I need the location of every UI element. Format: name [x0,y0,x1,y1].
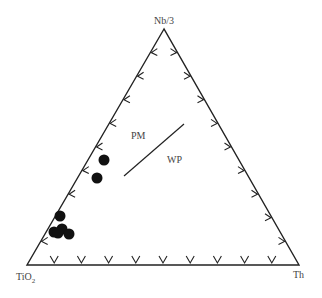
data-point [53,228,64,239]
vertex-label-bottom-left: TiO2 [16,271,36,285]
field-label-pm: PM [131,130,146,141]
data-point [92,173,103,184]
ternary-diagram: Nb/3 TiO2 Th PM WP [0,0,322,298]
tick-bottom [105,256,113,263]
vertex-label-top: Nb/3 [154,15,174,26]
tick-bottom [186,256,194,263]
data-point [99,155,110,166]
tick-bottom [268,256,276,263]
tick-bottom [213,256,221,263]
tio2-main: TiO [16,271,32,282]
tick-bottom [159,256,167,263]
tick-bottom [132,256,140,263]
vertex-label-bottom-right: Th [293,269,304,280]
tick-bottom [241,256,249,263]
field-label-wp: WP [167,154,182,165]
data-points [49,155,110,240]
tick-bottom [50,256,58,263]
tick-marks [42,49,285,263]
tick-bottom [77,256,85,263]
data-point [55,211,66,222]
tio2-subscript: 2 [32,277,36,285]
data-point [64,229,75,240]
